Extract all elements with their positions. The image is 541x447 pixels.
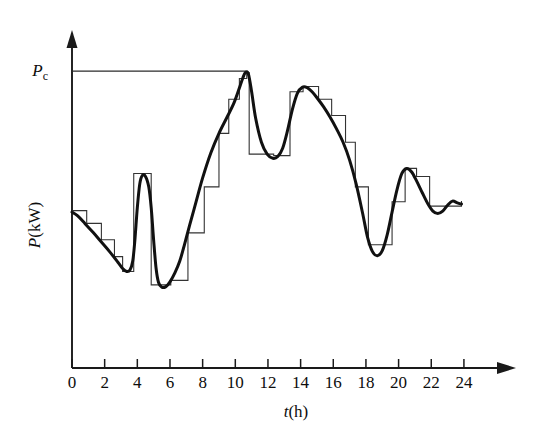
load-profile-chart: 024681012141618202224 Pc t(h) bbox=[0, 0, 541, 447]
x-tick-label-4: 4 bbox=[133, 373, 142, 392]
x-axis-tick-labels: 024681012141618202224 bbox=[68, 373, 473, 392]
x-axis-arrowhead bbox=[497, 362, 516, 374]
x-tick-label-12: 12 bbox=[259, 373, 276, 392]
continuous-load-curve bbox=[72, 72, 461, 288]
x-tick-label-22: 22 bbox=[423, 373, 440, 392]
x-axis-ticks bbox=[72, 359, 464, 368]
y-axis-group bbox=[67, 30, 78, 368]
x-tick-label-24: 24 bbox=[455, 373, 473, 392]
x-tick-label-16: 16 bbox=[325, 373, 342, 392]
x-tick-label-6: 6 bbox=[166, 373, 175, 392]
y-axis-title: P(kW) bbox=[22, 175, 48, 275]
page-caption-remnant bbox=[0, 431, 541, 447]
sampled-staircase-curve bbox=[72, 72, 461, 284]
x-tick-label-14: 14 bbox=[292, 373, 310, 392]
x-tick-label-20: 20 bbox=[390, 373, 407, 392]
x-tick-label-0: 0 bbox=[68, 373, 77, 392]
figure-container: 024681012141618202224 Pc t(h) P(kW) bbox=[0, 0, 541, 447]
x-tick-label-8: 8 bbox=[198, 373, 207, 392]
y-axis-arrowhead bbox=[67, 30, 78, 48]
x-tick-label-10: 10 bbox=[227, 373, 244, 392]
x-tick-label-18: 18 bbox=[357, 373, 374, 392]
pc-label: Pc bbox=[31, 61, 48, 83]
y-axis-title-text: P(kW) bbox=[25, 202, 45, 248]
x-tick-label-2: 2 bbox=[100, 373, 109, 392]
x-axis-title: t(h) bbox=[284, 402, 309, 421]
